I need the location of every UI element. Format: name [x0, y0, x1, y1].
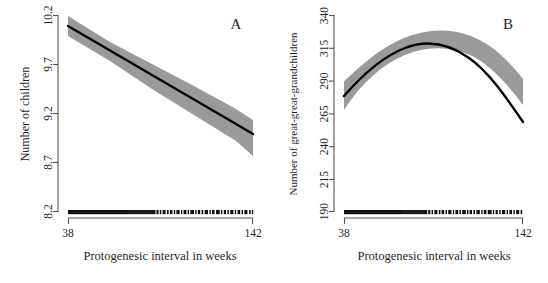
panel-b: 340 315 290 265 240 215 190 Number of gr…: [274, 0, 548, 283]
panel-letter-a: A: [231, 16, 242, 32]
fit-line-a: [68, 26, 253, 134]
y-axis-title-a: Number of children: [18, 67, 32, 162]
panel-a-plot: 10.2 9.7 9.2 8.7 8.2 Number of children: [0, 0, 274, 283]
y-tick-label-a-3: 9.7: [42, 57, 54, 72]
y-tick-label-a-1: 8.7: [42, 155, 54, 170]
figure-root: 10.2 9.7 9.2 8.7 8.2 Number of children: [0, 0, 548, 283]
x-axis-title-b: Protogenesic interval in weeks: [357, 249, 510, 263]
y-tick-label-b-1: 215: [318, 171, 330, 189]
y-tick-label-b-3: 265: [318, 105, 330, 123]
y-tick-label-b-6: 340: [318, 7, 330, 25]
y-tick-label-b-2: 240: [318, 138, 330, 156]
panel-a: 10.2 9.7 9.2 8.7 8.2 Number of children: [0, 0, 274, 283]
y-tick-label-a-2: 9.2: [42, 106, 54, 121]
rug-plot-a: [68, 210, 253, 214]
y-tick-label-a-4: 10.2: [42, 5, 54, 25]
x-tick-label-b-0: 38: [338, 227, 350, 239]
rug-plot-b: [344, 210, 522, 214]
panel-b-plot: 340 315 290 265 240 215 190 Number of gr…: [274, 0, 548, 283]
confidence-band-a: [68, 16, 253, 156]
panel-letter-b: B: [503, 16, 513, 32]
x-tick-label-a-1: 142: [244, 227, 262, 239]
x-tick-label-b-1: 142: [514, 227, 532, 239]
y-tick-label-b-5: 315: [318, 39, 330, 57]
x-tick-label-a-0: 38: [62, 227, 74, 239]
x-axis-title-a: Protogenesic interval in weeks: [83, 249, 236, 263]
y-tick-label-a-0: 8.2: [42, 204, 54, 219]
y-tick-label-b-0: 190: [318, 203, 330, 221]
y-axis-title-b: Number of great-great-grandchildren: [287, 32, 299, 196]
y-tick-label-b-4: 290: [318, 72, 330, 90]
